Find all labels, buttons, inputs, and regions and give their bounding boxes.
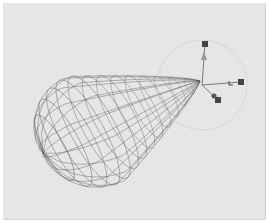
3d-viewport[interactable]: [3, 3, 266, 220]
mesh-meridian: [43, 81, 200, 181]
z-knob-icon: [212, 94, 217, 99]
y-arrow-icon: [201, 51, 207, 60]
x-axis-handle[interactable]: [238, 79, 244, 85]
mesh-meridian: [43, 81, 200, 177]
scene-canvas[interactable]: [3, 3, 265, 219]
z-axis-handle[interactable]: [215, 97, 221, 103]
mesh-ring: [39, 99, 92, 186]
transform-gizmo[interactable]: [157, 40, 247, 130]
mesh-ring: [68, 76, 130, 178]
x-axis-line[interactable]: [202, 82, 241, 85]
mesh-meridian: [43, 81, 200, 153]
y-axis-handle[interactable]: [202, 41, 208, 47]
teardrop-wireframe-mesh[interactable]: [34, 76, 200, 188]
mesh-ring: [47, 88, 107, 187]
y-axis-line[interactable]: [202, 44, 205, 85]
